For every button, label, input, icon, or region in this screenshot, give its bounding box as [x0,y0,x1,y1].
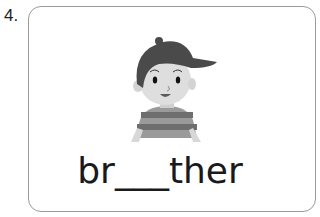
fill-in-blank-word: br___ther [0,150,320,191]
item-number: 4. [4,6,18,26]
word-prefix: br [77,150,115,191]
blank-field[interactable]: ___ [115,150,169,191]
word-suffix: ther [169,150,243,191]
boy-with-cap-icon [115,28,220,146]
